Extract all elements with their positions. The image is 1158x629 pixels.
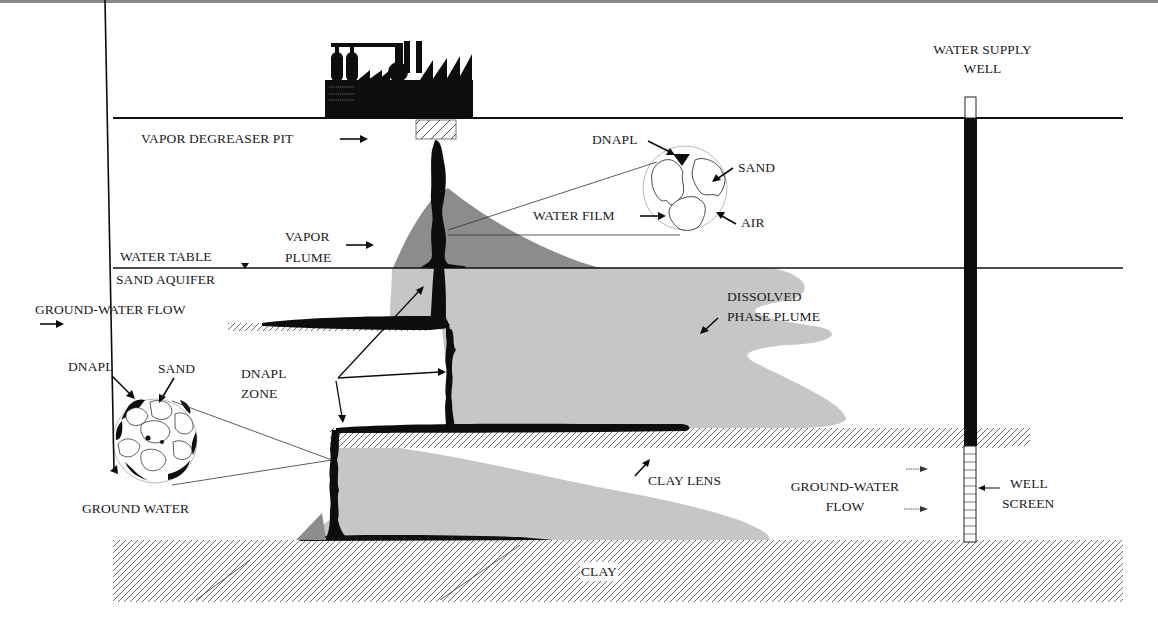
label-sand-aquifer: SAND AQUIFER	[116, 270, 215, 289]
label-well-screen: WELL SCREEN	[1002, 474, 1054, 514]
vapor-degreaser-pit	[416, 120, 456, 139]
label-air: AIR	[741, 213, 765, 232]
label-line: FLOW	[780, 497, 910, 517]
label-line: PLUME	[285, 247, 331, 268]
clay-layer	[113, 540, 1123, 602]
label-vapor-plume: VAPOR PLUME	[285, 226, 331, 268]
label-vapor-degreaser-pit: VAPOR DEGREASER PIT	[141, 129, 293, 148]
label-dnapl-zone: DNAPL ZONE	[241, 364, 287, 404]
label-dnapl-left: DNAPL	[68, 357, 114, 376]
label-line: DNAPL	[241, 364, 287, 384]
magnified-pore-saturated	[113, 399, 197, 483]
label-line: SCREEN	[1002, 494, 1054, 514]
label-line: GROUND-WATER	[780, 477, 910, 497]
label-clay-lens: CLAY LENS	[648, 471, 721, 490]
label-line: ZONE	[241, 384, 287, 404]
label-dnapl-top: DNAPL	[592, 130, 638, 149]
water-supply-well	[964, 97, 977, 542]
label-line: VAPOR	[285, 226, 331, 247]
label-water-film: WATER FILM	[533, 206, 615, 225]
label-line: WELL	[1002, 474, 1054, 494]
label-line: PHASE PLUME	[727, 307, 820, 327]
label-water-table: WATER TABLE	[120, 247, 212, 266]
label-ground-water-flow-top: GROUND-WATER FLOW	[35, 300, 186, 319]
label-line: DISSOLVED	[727, 287, 820, 307]
label-dissolved-phase-plume: DISSOLVED PHASE PLUME	[727, 287, 820, 327]
label-line: WATER SUPPLY	[920, 40, 1045, 59]
label-ground-water: GROUND WATER	[82, 499, 189, 518]
label-sand-left: SAND	[158, 359, 195, 378]
label-water-supply-well: WATER SUPPLY WELL	[920, 40, 1045, 78]
dissolved-plume-lower	[300, 448, 770, 540]
label-clay: CLAY	[580, 562, 618, 581]
label-line: WELL	[920, 59, 1045, 78]
label-sand-top: SAND	[738, 158, 775, 177]
factory-icon	[325, 41, 473, 118]
label-ground-water-flow-bottom: GROUND-WATER FLOW	[780, 477, 910, 517]
magnified-pore-unsaturated	[643, 146, 727, 230]
vapor-plume	[393, 188, 600, 268]
